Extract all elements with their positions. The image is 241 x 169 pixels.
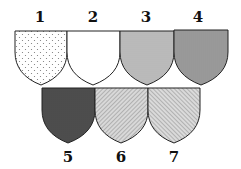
label-4: 4: [193, 8, 203, 26]
shield-1: [15, 31, 67, 85]
label-2: 2: [88, 8, 98, 26]
shield-6: [95, 88, 148, 143]
shield-2: [67, 31, 120, 85]
shield-5: [42, 88, 95, 143]
label-5: 5: [63, 148, 73, 166]
shield-4: [174, 30, 228, 85]
label-3: 3: [141, 8, 151, 26]
label-7: 7: [169, 148, 179, 166]
label-1: 1: [35, 8, 45, 26]
shield-7: [148, 88, 200, 143]
label-6: 6: [116, 148, 126, 166]
tincture-diagram: 1 2 3 4 5 6 7: [0, 0, 241, 169]
shield-3: [120, 31, 174, 85]
